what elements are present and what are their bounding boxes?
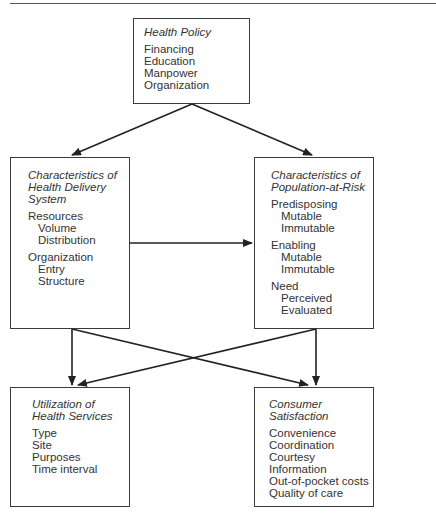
health-policy-item: Education	[144, 55, 249, 67]
group-organization: Organization Entry Structure	[28, 251, 129, 287]
arrow-policy-to-population	[192, 104, 312, 155]
satisfaction-item: Out-of-pocket costs	[269, 475, 373, 487]
delivery-system-box: Characteristics of Health Delivery Syste…	[10, 157, 130, 329]
population-at-risk-box: Characteristics of Population-at-Risk Pr…	[254, 157, 374, 329]
title-line: Characteristics of	[28, 169, 129, 181]
group-need: Need Perceived Evaluated	[271, 280, 373, 316]
title-line: Health Delivery	[28, 181, 129, 193]
group-resources: Resources Volume Distribution	[28, 210, 129, 246]
utilization-item: Type	[32, 427, 129, 439]
arrow-policy-to-delivery	[72, 104, 192, 155]
group-item: Entry	[28, 263, 129, 275]
utilization-title: Utilization of Health Services	[32, 398, 129, 422]
group-item: Mutable	[271, 251, 373, 263]
title-line: Utilization of	[32, 398, 129, 410]
arrow-population-to-utilization	[78, 329, 316, 385]
title-line: Characteristics of	[271, 169, 373, 181]
health-policy-box: Health Policy Financing Education Manpow…	[133, 18, 250, 104]
group-item: Perceived	[271, 292, 373, 304]
title-line: System	[28, 193, 129, 205]
title-line: Satisfaction	[269, 410, 373, 422]
consumer-satisfaction-box: Consumer Satisfaction Convenience Coordi…	[254, 387, 374, 507]
group-label: Resources	[28, 210, 129, 222]
health-policy-item: Manpower	[144, 67, 249, 79]
health-policy-item: Financing	[144, 43, 249, 55]
consumer-satisfaction-title: Consumer Satisfaction	[269, 398, 373, 422]
health-policy-item: Organization	[144, 79, 249, 91]
group-item: Immutable	[271, 263, 373, 275]
title-line: Population-at-Risk	[271, 181, 373, 193]
group-item: Immutable	[271, 222, 373, 234]
utilization-item: Purposes	[32, 451, 129, 463]
group-item: Structure	[28, 275, 129, 287]
group-label: Enabling	[271, 239, 373, 251]
group-label: Need	[271, 280, 373, 292]
title-line: Health Services	[32, 410, 129, 422]
group-item: Volume	[28, 222, 129, 234]
group-label: Organization	[28, 251, 129, 263]
satisfaction-item: Coordination	[269, 439, 373, 451]
group-label: Predisposing	[271, 198, 373, 210]
health-policy-title: Health Policy	[144, 26, 249, 38]
group-item: Evaluated	[271, 304, 373, 316]
satisfaction-item: Courtesy	[269, 451, 373, 463]
utilization-box: Utilization of Health Services Type Site…	[10, 387, 130, 507]
delivery-system-title: Characteristics of Health Delivery Syste…	[28, 169, 129, 205]
satisfaction-item: Convenience	[269, 427, 373, 439]
satisfaction-item: Information	[269, 463, 373, 475]
group-enabling: Enabling Mutable Immutable	[271, 239, 373, 275]
group-item: Distribution	[28, 234, 129, 246]
title-line: Consumer	[269, 398, 373, 410]
group-predisposing: Predisposing Mutable Immutable	[271, 198, 373, 234]
utilization-item: Site	[32, 439, 129, 451]
arrow-delivery-to-satisfaction	[72, 329, 308, 385]
population-at-risk-title: Characteristics of Population-at-Risk	[271, 169, 373, 193]
group-item: Mutable	[271, 210, 373, 222]
satisfaction-item: Quality of care	[269, 487, 373, 499]
utilization-item: Time interval	[32, 463, 129, 475]
